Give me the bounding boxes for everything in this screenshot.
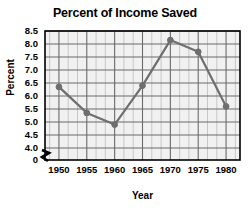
y-tick-label: 8.5 (12, 25, 38, 36)
data-point (167, 37, 173, 43)
y-tick-label: 4.0 (12, 142, 38, 153)
data-point (195, 49, 201, 55)
chart-figure: Percent of Income Saved Percent Year 8.5… (0, 0, 250, 210)
y-tick-label: 0 (12, 154, 38, 165)
data-point (140, 83, 146, 89)
x-tick-label: 1980 (209, 164, 243, 175)
data-point (223, 104, 229, 110)
y-tick-label: 7.5 (12, 51, 38, 62)
y-tick-label: 8.0 (12, 38, 38, 49)
y-tick-label: 7.0 (12, 64, 38, 75)
data-point (112, 122, 118, 128)
y-tick-label: 5.0 (12, 116, 38, 127)
data-point (84, 110, 90, 116)
y-tick-label: 5.5 (12, 103, 38, 114)
y-tick-label: 6.5 (12, 77, 38, 88)
y-tick-label: 6.0 (12, 90, 38, 101)
data-point (56, 84, 62, 90)
y-tick-label: 4.5 (12, 129, 38, 140)
